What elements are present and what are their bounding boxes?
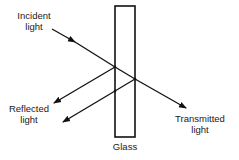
transmitted-light-label: Transmitted light [172,113,228,135]
transmitted-ray [135,79,186,108]
transmitted-label-line2: light [172,124,228,135]
internal-point [114,90,117,93]
incident-light-label: Incident light [14,10,54,32]
glass-plate [115,6,135,137]
transmitted-label-line1: Transmitted [172,113,228,124]
reflected-label-line1: Reflected [8,103,50,114]
reflected-label-line2: light [8,114,50,125]
incident-ray [52,29,75,42]
incident-label-line2: light [14,21,54,32]
glass-label: Glass [110,141,140,152]
reflected-ray-2 [63,91,115,122]
incident-ray-continued [75,42,115,67]
reflected-ray-1 [54,67,115,103]
incident-label-line1: Incident [14,10,54,21]
entry-point [114,66,117,69]
internal-reflection-ray [115,79,135,91]
exit-point [134,78,137,81]
refracted-ray [115,67,135,79]
reflected-light-label: Reflected light [8,103,50,125]
